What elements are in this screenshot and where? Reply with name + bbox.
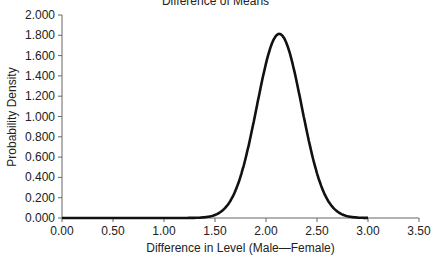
x-tick-label: 2.50 [305, 224, 329, 238]
y-tick-label: 1.000 [25, 110, 55, 124]
x-axis: 0.000.501.001.502.002.503.003.50 [50, 218, 431, 238]
y-tick-label: 1.600 [25, 49, 55, 63]
chart-plot: 0.0000.2000.4000.6000.8001.0001.2001.400… [0, 0, 431, 261]
y-tick-label: 1.400 [25, 69, 55, 83]
y-tick-label: 0.000 [25, 211, 55, 225]
y-tick-label: 2.000 [25, 8, 55, 22]
x-tick-label: 0.50 [101, 224, 125, 238]
x-tick-label: 2.00 [254, 224, 278, 238]
x-tick-label: 1.00 [152, 224, 176, 238]
x-tick-label: 3.00 [356, 224, 380, 238]
y-tick-label: 0.800 [25, 130, 55, 144]
y-tick-label: 0.400 [25, 170, 55, 184]
y-tick-label: 0.600 [25, 150, 55, 164]
y-tick-label: 1.800 [25, 28, 55, 42]
x-tick-label: 1.50 [203, 224, 227, 238]
x-tick-label: 0.00 [50, 224, 74, 238]
y-axis: 0.0000.2000.4000.6000.8001.0001.2001.400… [25, 8, 62, 225]
y-tick-label: 0.200 [25, 191, 55, 205]
density-curve [62, 34, 368, 218]
y-tick-label: 1.200 [25, 89, 55, 103]
x-tick-label: 3.50 [407, 224, 431, 238]
